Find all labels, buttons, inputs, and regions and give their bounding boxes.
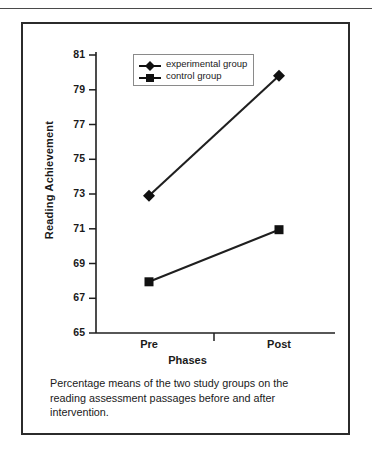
y-tick-marks — [89, 55, 96, 333]
figure-caption-line-2: reading assessment passages before and a… — [50, 391, 322, 406]
chart-legend: experimental group control group — [133, 54, 254, 86]
data-point-control-post — [275, 225, 284, 234]
figure-caption-line-3: intervention. — [50, 405, 322, 420]
x-tick-label-post: Post — [249, 338, 309, 350]
y-tick-label-77: 77 — [59, 118, 85, 130]
legend-marker-diamond-icon — [138, 58, 162, 70]
series-line-experimental — [149, 76, 279, 196]
x-tick-label-pre: Pre — [119, 338, 179, 350]
y-tick-label-75: 75 — [59, 152, 85, 164]
legend-item-control: control group — [138, 70, 247, 82]
y-tick-label-81: 81 — [59, 48, 85, 60]
figure-caption: Percentage means of the two study groups… — [50, 376, 322, 420]
legend-label-control: control group — [166, 70, 221, 82]
y-tick-label-73: 73 — [59, 187, 85, 199]
legend-marker-square-icon — [138, 70, 162, 82]
y-tick-label-71: 71 — [59, 222, 85, 234]
y-tick-label-79: 79 — [59, 83, 85, 95]
page-top-rule — [0, 8, 372, 9]
x-axis-title: Phases — [23, 354, 352, 366]
figure-frame: Reading Achievement 81 79 77 75 73 71 69… — [21, 22, 350, 435]
series-line-control — [149, 230, 279, 282]
legend-label-experimental: experimental group — [166, 58, 247, 70]
y-tick-label-65: 65 — [59, 326, 85, 338]
y-tick-label-67: 67 — [59, 291, 85, 303]
chart-plot-area: Reading Achievement 81 79 77 75 73 71 69… — [23, 24, 352, 374]
legend-item-experimental: experimental group — [138, 58, 247, 70]
y-axis-title: Reading Achievement — [43, 110, 55, 250]
data-point-control-pre — [145, 277, 154, 286]
figure-caption-line-1: Percentage means of the two study groups… — [50, 376, 322, 391]
y-tick-label-69: 69 — [59, 257, 85, 269]
